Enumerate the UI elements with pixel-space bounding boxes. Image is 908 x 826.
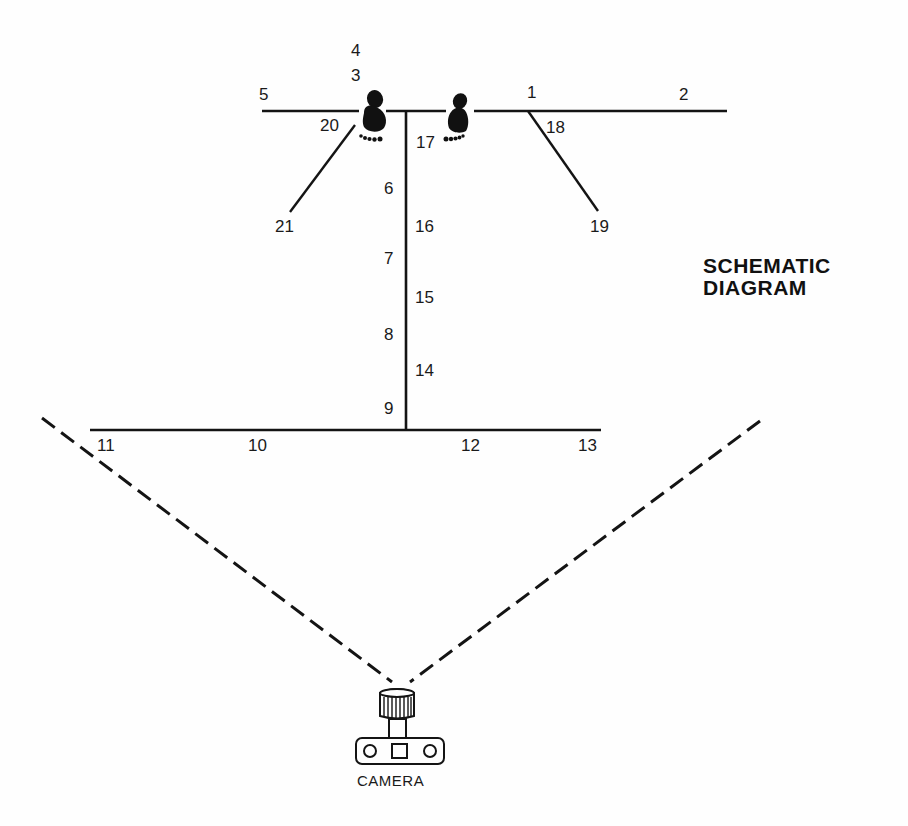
position-label-16: 16: [415, 218, 434, 235]
position-label-14: 14: [415, 362, 434, 379]
diagram-title: SCHEMATIC DIAGRAM: [703, 255, 831, 299]
diagram-lines: [0, 0, 908, 826]
position-label-19: 19: [590, 218, 609, 235]
left-footprint-icon: [359, 88, 386, 142]
position-label-4: 4: [351, 42, 360, 59]
position-label-17: 17: [416, 134, 435, 151]
camera-view-line-left: [42, 418, 392, 682]
position-label-8: 8: [384, 326, 393, 343]
diagram-title-line-1: SCHEMATIC: [703, 255, 831, 277]
position-label-10: 10: [248, 437, 267, 454]
position-label-5: 5: [259, 86, 268, 103]
position-label-12: 12: [461, 437, 480, 454]
position-label-9: 9: [384, 400, 393, 417]
position-label-20: 20: [320, 117, 339, 134]
camera-view-line-right: [410, 421, 760, 682]
right-footprint-icon: [444, 91, 470, 142]
schematic-diagram: 1 2 3 4 5 6 7 8 9 10 11 12 13 14 15 16 1…: [0, 0, 908, 826]
position-label-18: 18: [546, 119, 565, 136]
position-label-1: 1: [527, 84, 536, 101]
diagonal-line-left: [290, 125, 355, 212]
position-label-2: 2: [679, 86, 688, 103]
position-label-15: 15: [415, 289, 434, 306]
position-label-13: 13: [578, 437, 597, 454]
diagram-title-line-2: DIAGRAM: [703, 277, 831, 299]
position-label-3: 3: [351, 67, 360, 84]
camera-label: CAMERA: [357, 772, 424, 789]
position-label-6: 6: [384, 180, 393, 197]
position-label-21: 21: [275, 218, 294, 235]
camera-icon: [356, 689, 444, 764]
position-label-7: 7: [384, 250, 393, 267]
position-label-11: 11: [97, 437, 115, 454]
